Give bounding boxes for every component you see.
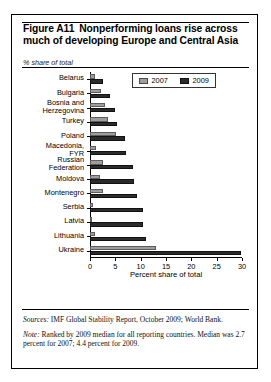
chart-legend: 2007 2009 — [132, 73, 216, 88]
category-label: Bulgaria — [57, 89, 84, 97]
category-label: Russian Federation — [49, 156, 84, 172]
y-axis-tick — [87, 251, 90, 252]
y-axis-tick — [87, 93, 90, 94]
note-body: Ranked by 2009 median for all reporting … — [23, 330, 245, 349]
bar-group — [90, 229, 242, 243]
x-tick — [166, 258, 167, 262]
category-label: Poland — [61, 132, 84, 140]
y-axis-tick — [87, 236, 90, 237]
category-label: Ukraine — [59, 246, 84, 254]
bar-2009 — [90, 94, 110, 98]
category-label: Turkey — [62, 117, 84, 125]
sources-note: Sources: IMF Global Stability Report, Oc… — [23, 315, 249, 325]
figure-card: Figure A11Nonperforming loans rise acros… — [11, 14, 258, 369]
bar-2009 — [90, 122, 117, 126]
x-tick — [115, 258, 116, 262]
x-tick — [90, 258, 91, 262]
bar-group — [90, 244, 242, 258]
bar-2009 — [90, 251, 241, 255]
bar-2007 — [90, 175, 100, 179]
y-axis-tick — [87, 122, 90, 123]
bar-group — [90, 115, 242, 129]
chart-area: BelarusBulgariaBosnia and HerzegovinaTur… — [12, 68, 259, 286]
y-axis-tick — [87, 108, 90, 109]
page-title: Figure A11Nonperforming loans rise acros… — [23, 23, 247, 35]
y-axis-tick — [87, 222, 90, 223]
bar-group — [90, 100, 242, 114]
category-label: Belarus — [59, 74, 84, 82]
bar-2007 — [90, 160, 103, 164]
category-label: Bosnia and Herzegovina — [43, 99, 85, 115]
x-axis-title: Percent share of total — [90, 270, 242, 279]
bar-group — [90, 86, 242, 100]
bar-group — [90, 129, 242, 143]
bar-group — [90, 215, 242, 229]
bar-2007 — [90, 203, 93, 207]
bar-2007 — [90, 146, 96, 150]
title-top-rule — [22, 22, 249, 23]
bar-group — [90, 172, 242, 186]
bar-2009 — [90, 208, 143, 212]
y-axis-tick — [87, 193, 90, 194]
legend-swatch-2009 — [180, 78, 189, 84]
legend-swatch-2007 — [139, 78, 148, 84]
bar-group — [90, 201, 242, 215]
bar-2009 — [90, 179, 134, 183]
bar-2007 — [90, 132, 116, 136]
category-label: Latvia — [64, 217, 84, 225]
sources-label: Sources: — [23, 315, 49, 324]
category-label: Lithuania — [54, 232, 84, 240]
note-text-block: Note: Ranked by 2009 median for all repo… — [23, 330, 249, 349]
bar-2009 — [90, 79, 103, 83]
bar-group — [90, 158, 242, 172]
bar-2007 — [90, 217, 92, 221]
x-tick — [191, 258, 192, 262]
footnote-rule — [22, 309, 249, 310]
figure-title-block: Figure A11Nonperforming loans rise acros… — [12, 15, 257, 54]
bar-rows — [90, 72, 242, 258]
y-axis-tick — [87, 208, 90, 209]
bar-2007 — [90, 246, 156, 250]
category-label: Montenegro — [45, 189, 84, 197]
unit-note: % share of total — [23, 58, 257, 67]
bar-2009 — [90, 108, 115, 112]
category-label: Moldova — [56, 175, 84, 183]
y-axis-tick — [87, 151, 90, 152]
bar-2007 — [90, 232, 95, 236]
bar-2009 — [90, 237, 146, 241]
legend-label-2009: 2009 — [192, 76, 208, 85]
category-axis-labels: BelarusBulgariaBosnia and HerzegovinaTur… — [12, 72, 88, 258]
bar-2009 — [90, 151, 126, 155]
figure-label: Figure A11 — [23, 23, 74, 34]
sources-text: IMF Global Stability Report, October 200… — [49, 315, 223, 324]
x-tick — [242, 258, 243, 262]
y-axis-tick — [87, 79, 90, 80]
bar-2007 — [90, 74, 95, 78]
legend-label-2007: 2007 — [152, 76, 168, 85]
legend-item-2007: 2007 — [139, 76, 168, 85]
figure-title-line1: Nonperforming loans rise across — [79, 23, 237, 34]
footnotes: Sources: IMF Global Stability Report, Oc… — [23, 315, 249, 354]
bar-2007 — [90, 103, 105, 107]
y-axis-tick — [87, 136, 90, 137]
bar-2009 — [90, 194, 137, 198]
y-axis-tick — [87, 179, 90, 180]
bar-2009 — [90, 165, 133, 169]
bar-2007 — [90, 117, 108, 121]
x-tick — [141, 258, 142, 262]
bar-group — [90, 143, 242, 157]
note-label: Note: — [23, 330, 40, 339]
bar-2007 — [90, 89, 101, 93]
figure-title-line2: much of developing Europe and Central As… — [23, 35, 247, 47]
bar-2009 — [90, 222, 143, 226]
bar-group — [90, 186, 242, 200]
legend-item-2009: 2009 — [180, 76, 209, 85]
plot-region: 051015202530 — [90, 72, 242, 258]
bar-2009 — [90, 136, 125, 140]
y-axis-tick — [87, 165, 90, 166]
bar-2007 — [90, 189, 103, 193]
category-label: Serbia — [63, 203, 84, 211]
x-tick — [217, 258, 218, 262]
